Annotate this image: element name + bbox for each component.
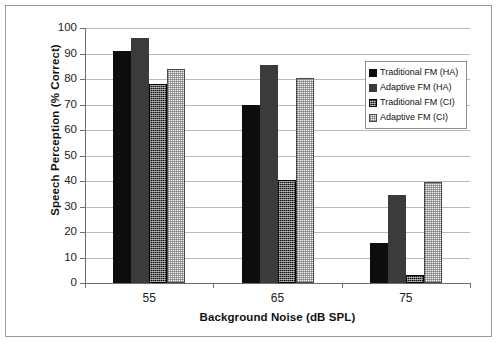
x-axis-line [85,283,470,284]
legend-item: Adaptive FM (HA) [369,80,463,95]
y-tick-label: 100 [37,22,77,34]
legend-item: Adaptive FM (CI) [369,110,463,125]
bar [424,182,442,283]
legend-label: Traditional FM (HA) [380,68,458,77]
y-tick-mark [80,207,85,208]
bar [260,65,278,283]
y-tick-mark [80,79,85,80]
y-tick-label: 70 [37,99,77,111]
y-tick-label: 10 [37,252,77,264]
bar [131,38,149,283]
bar [149,84,167,283]
y-tick-mark [80,181,85,182]
bar [113,51,131,283]
bar [406,275,424,283]
legend-swatch-adaptive-fm-ci [369,114,377,122]
y-tick-mark [80,105,85,106]
chart-legend: Traditional FM (HA) Adaptive FM (HA) Tra… [365,61,467,129]
y-tick-label: 90 [37,48,77,60]
legend-label: Adaptive FM (HA) [380,83,452,92]
y-tick-label: 80 [37,73,77,85]
y-tick-label: 50 [37,150,77,162]
y-tick-label: 40 [37,175,77,187]
x-tick-label: 65 [248,292,308,304]
x-tick-mark [213,283,214,288]
y-tick-label: 30 [37,201,77,213]
y-tick-label: 0 [37,277,77,289]
bar [167,69,185,283]
legend-swatch-traditional-fm-ha [369,69,377,77]
y-tick-mark [80,130,85,131]
bar [296,78,314,283]
x-axis-title: Background Noise (dB SPL) [85,311,470,323]
x-tick-mark [85,283,86,288]
legend-label: Traditional FM (CI) [380,98,455,107]
bar [242,105,260,284]
bar [278,180,296,283]
y-tick-label: 20 [37,226,77,238]
bar [370,243,388,283]
x-tick-mark [342,283,343,288]
legend-swatch-adaptive-fm-ha [369,84,377,92]
x-tick-label: 55 [119,292,179,304]
bar [388,195,406,283]
legend-label: Adaptive FM (CI) [380,113,448,122]
x-tick-label: 75 [376,292,436,304]
y-tick-label: 60 [37,124,77,136]
y-tick-mark [80,232,85,233]
chart-figure: Speech Perception (% Correct) Background… [0,0,504,352]
x-tick-mark [470,283,471,288]
y-tick-mark [80,156,85,157]
y-tick-mark [80,54,85,55]
legend-item: Traditional FM (CI) [369,95,463,110]
legend-swatch-traditional-fm-ci [369,99,377,107]
y-tick-mark [80,258,85,259]
y-axis-title-wrap: Speech Perception (% Correct) [18,28,38,283]
legend-item: Traditional FM (HA) [369,65,463,80]
y-tick-mark [80,28,85,29]
